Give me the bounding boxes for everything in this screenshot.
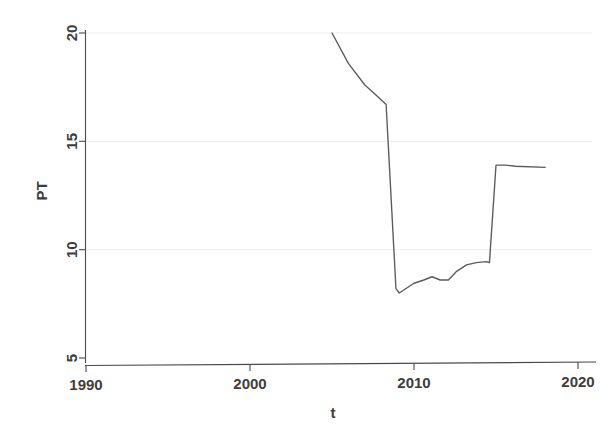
x-tick-label-2010: 2010	[397, 374, 430, 391]
y-tick-label-10: 10	[63, 241, 80, 258]
y-axis-title: PT	[33, 181, 50, 200]
x-tick-label-1990: 1990	[69, 376, 102, 393]
y-axis: 20 15 10 5 PT	[33, 25, 86, 363]
y-tick-label-20: 20	[63, 25, 80, 42]
x-axis: 1990 2000 2010 2020 t	[69, 362, 596, 421]
y-tick-label-5: 5	[63, 354, 80, 362]
data-line-pt	[332, 33, 545, 293]
x-tick-label-2000: 2000	[233, 375, 266, 392]
chart-page: 20 15 10 5 PT 1990 2000 2010 2020 t	[0, 0, 614, 439]
line-chart: 20 15 10 5 PT 1990 2000 2010 2020 t	[0, 0, 614, 439]
y-tick-label-15: 15	[63, 133, 80, 150]
x-tick-label-2020: 2020	[561, 373, 594, 390]
x-axis-title: t	[331, 404, 336, 421]
x-axis-line	[85, 362, 596, 366]
data-series-group	[332, 33, 545, 293]
gridlines	[86, 33, 592, 250]
